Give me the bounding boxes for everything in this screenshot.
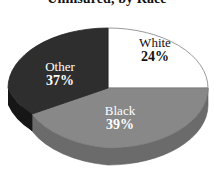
slice-label-white: White 24%: [118, 36, 192, 65]
slice-label-other-percent: 37%: [24, 74, 96, 89]
pie-chart-graphic: [0, 0, 214, 191]
slice-label-other: Other 37%: [24, 60, 96, 89]
slice-label-black-name: Black: [84, 104, 156, 118]
slice-label-black-percent: 39%: [84, 118, 156, 133]
pie-chart-figure: Uninsured, by Race White 24% Black 39%: [0, 0, 214, 191]
slice-label-white-percent: 24%: [118, 50, 192, 65]
pie-svg: [0, 0, 214, 191]
slice-label-other-name: Other: [24, 60, 96, 74]
slice-label-black: Black 39%: [84, 104, 156, 133]
slice-label-white-name: White: [118, 36, 192, 50]
